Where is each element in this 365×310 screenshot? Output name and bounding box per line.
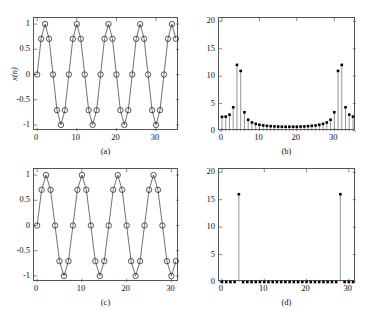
y-tick-label-d: 20 <box>207 167 216 176</box>
x-tick-label-d: 30 <box>344 284 353 293</box>
series-layer-d <box>219 169 356 282</box>
y-tick-label-d: 10 <box>207 222 216 231</box>
plot-area-d <box>218 168 355 281</box>
x-tick-label-d: 10 <box>259 284 268 293</box>
y-tick-label-d: 5 <box>211 249 215 258</box>
y-tick-label-d: 0 <box>211 277 215 286</box>
subplot-caption-d: (d) <box>282 297 292 307</box>
figure-canvas: 0102030-1-0.500.51(a)x(n) 01020300510152… <box>0 0 365 310</box>
y-tick-label-d: 15 <box>207 194 216 203</box>
tick-marks-d <box>219 169 356 282</box>
x-tick-label-d: 0 <box>219 284 223 293</box>
subplot-d: 010203005101520(d) <box>0 0 365 310</box>
stems-d <box>222 194 353 282</box>
x-tick-label-d: 20 <box>301 284 310 293</box>
data-markers-d <box>221 193 355 283</box>
